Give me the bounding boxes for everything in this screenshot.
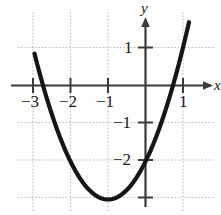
x-axis-label: x — [214, 78, 221, 93]
y-axis-label: y — [141, 1, 148, 16]
y-axis-arrow-head — [141, 17, 150, 27]
y-tick-label-minus-2: −2 — [113, 151, 131, 168]
x-tick-label-minus-2: −2 — [59, 93, 77, 110]
y-axis — [141, 17, 150, 207]
graph-figure: −3 −2 −1 1 1 −1 −2 y x — [0, 0, 221, 215]
y-tick-label-1: 1 — [124, 39, 133, 56]
x-tick-label-1: 1 — [179, 93, 188, 110]
y-tick-label-minus-1: −1 — [113, 114, 131, 131]
x-tick-label-minus-3: −3 — [21, 93, 39, 110]
x-tick-label-minus-1: −1 — [96, 93, 114, 110]
x-axis-arrow-head — [203, 81, 213, 90]
